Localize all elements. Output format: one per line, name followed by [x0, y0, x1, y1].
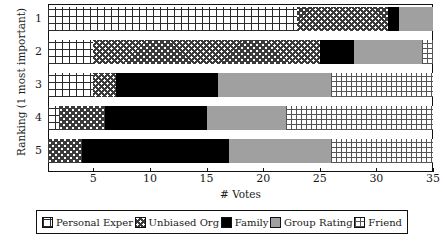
y-tick-label-1: 1 — [24, 12, 42, 25]
legend-item-friend: Friend — [354, 217, 402, 228]
x-tick-label-35: 35 — [420, 172, 445, 185]
legend-label: Group Rating — [284, 217, 353, 228]
x-tick-label-5: 5 — [80, 172, 106, 185]
group-rating-swatch — [270, 217, 281, 228]
chart-container: Ranking (1 most important) 12345 5101520… — [0, 0, 445, 245]
x-axis-label: # Votes — [48, 188, 433, 200]
legend-item-personal-exper: Personal Exper — [42, 217, 133, 228]
y-tick-label-3: 3 — [24, 78, 42, 91]
x-tick-label-15: 15 — [194, 172, 220, 185]
x-tick-label-30: 30 — [363, 172, 389, 185]
x-tick-label-25: 25 — [307, 172, 333, 185]
unbiased-org-swatch — [135, 217, 146, 228]
legend-item-group-rating: Group Rating — [270, 217, 353, 228]
x-axis-ticks: 5101520253035 — [0, 172, 445, 188]
family-swatch — [221, 217, 232, 228]
y-axis-ticks: 12345 — [0, 0, 445, 245]
legend-item-family: Family — [221, 217, 269, 228]
legend-item-unbiased-org: Unbiased Org — [135, 217, 219, 228]
legend-label: Friend — [368, 217, 402, 228]
legend-label: Family — [235, 217, 269, 228]
x-tick-label-20: 20 — [250, 172, 276, 185]
y-tick-label-2: 2 — [24, 45, 42, 58]
y-tick-label-4: 4 — [24, 111, 42, 124]
chart-legend: Personal ExperUnbiased OrgFamilyGroup Ra… — [36, 210, 408, 234]
y-tick-label-5: 5 — [24, 144, 42, 157]
legend-label: Unbiased Org — [149, 217, 219, 228]
personal-exper-swatch — [42, 217, 53, 228]
x-tick-label-10: 10 — [137, 172, 163, 185]
legend-label: Personal Exper — [56, 217, 133, 228]
friend-swatch — [354, 217, 365, 228]
